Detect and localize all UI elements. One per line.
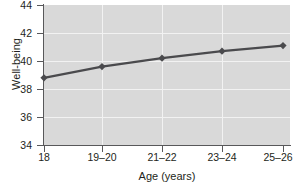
data-point-marker	[40, 74, 47, 81]
data-point-marker	[218, 48, 225, 55]
data-point-marker	[98, 63, 105, 70]
data-point-marker	[158, 55, 165, 62]
wellbeing-age-line-chart: 44 42 40 38 36 34 18 19–20 21–22 23–24 2…	[0, 0, 298, 188]
series-line	[44, 46, 283, 78]
data-series-layer	[0, 0, 298, 188]
data-point-marker	[279, 42, 286, 49]
